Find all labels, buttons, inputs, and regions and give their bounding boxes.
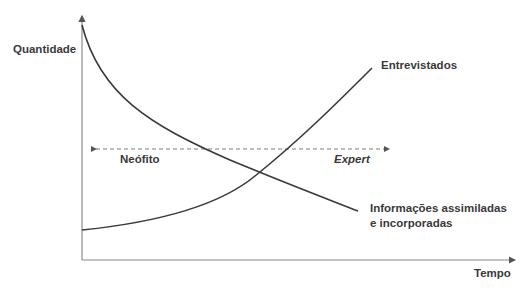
- x-axis-label: Tempo: [474, 266, 511, 280]
- decreasing-curve: [82, 25, 358, 211]
- expert-label: Expert: [334, 152, 370, 166]
- y-axis-label: Quantidade: [13, 42, 76, 56]
- informacoes-label-line2: e incorporadas: [370, 216, 452, 230]
- entrevistados-label: Entrevistados: [381, 58, 457, 72]
- diagram-canvas: [0, 0, 529, 292]
- neofito-label: Neófito: [120, 152, 160, 166]
- informacoes-label-line1: Informações assimiladas: [370, 201, 507, 215]
